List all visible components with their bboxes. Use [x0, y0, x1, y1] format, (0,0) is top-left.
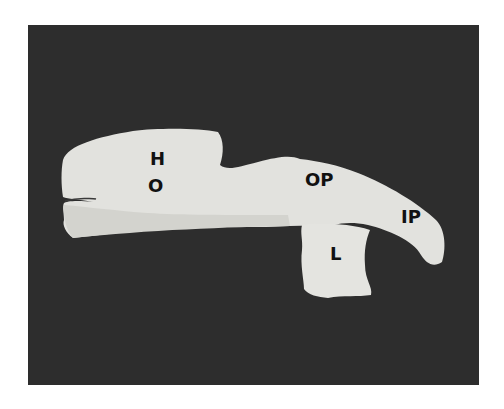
photograph: H O OP IP L [28, 25, 479, 385]
label-h: H [150, 150, 165, 168]
label-ip: IP [401, 208, 421, 226]
cast-object [28, 25, 479, 385]
cast-body [62, 129, 445, 265]
label-op: OP [305, 171, 334, 189]
label-o: O [148, 177, 163, 195]
label-l: L [330, 245, 341, 263]
